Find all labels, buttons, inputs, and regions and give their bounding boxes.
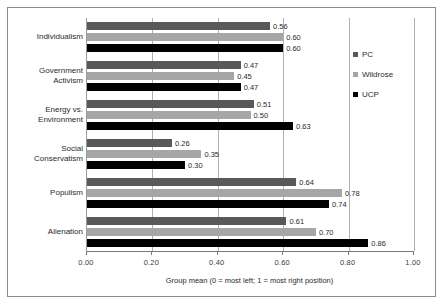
legend-label: UCP	[362, 90, 379, 99]
category-label: Individualism	[7, 32, 87, 42]
bar-value-label: 0.47	[241, 83, 259, 92]
bar-group: Populism0.640.780.74	[87, 173, 413, 212]
legend-swatch-icon	[353, 72, 358, 77]
tick-mark	[86, 251, 87, 255]
tick-mark	[217, 251, 218, 255]
chart-figure: Individualism0.560.600.60Government Acti…	[0, 0, 443, 304]
category-label: Populism	[7, 188, 87, 198]
bar-row: 0.70	[87, 228, 414, 236]
bar-row: 0.50	[87, 111, 414, 119]
x-tick-label: 0.20	[144, 258, 159, 267]
bar-wildrose[interactable]	[87, 150, 201, 158]
legend-item-wildrose[interactable]: Wildrose	[353, 64, 433, 84]
category-label: Social Conservatism	[7, 144, 87, 164]
category-label: Government Activism	[7, 66, 87, 86]
bar-value-label: 0.35	[201, 149, 219, 158]
x-tick-label: 0.40	[209, 258, 224, 267]
chart-legend: PCWildroseUCP	[353, 44, 433, 104]
bar-value-label: 0.86	[368, 238, 386, 247]
bar-ucp[interactable]	[87, 83, 241, 91]
bar-value-label: 0.61	[286, 216, 304, 225]
x-tick-label: 1.00	[405, 258, 420, 267]
tick-mark	[151, 251, 152, 255]
legend-swatch-icon	[353, 52, 358, 57]
category-label: Alienation	[7, 227, 87, 237]
bar-ucp[interactable]	[87, 44, 283, 52]
bar-wildrose[interactable]	[87, 228, 316, 236]
bar-row: 0.60	[87, 33, 414, 41]
bar-row: 0.26	[87, 139, 414, 147]
bar-row: 0.56	[87, 22, 414, 30]
bar-wildrose[interactable]	[87, 72, 234, 80]
bar-pc[interactable]	[87, 139, 172, 147]
legend-label: Wildrose	[362, 70, 393, 79]
bar-value-label: 0.56	[270, 22, 288, 31]
bar-ucp[interactable]	[87, 200, 329, 208]
bar-value-label: 0.78	[342, 188, 360, 197]
bar-value-label: 0.74	[329, 199, 347, 208]
x-tick-label: 0.00	[78, 258, 93, 267]
bar-pc[interactable]	[87, 100, 254, 108]
bar-value-label: 0.47	[241, 61, 259, 70]
x-axis-line	[86, 251, 413, 252]
x-axis-title: Group mean (0 = most left; 1 = most righ…	[86, 276, 413, 285]
bar-row: 0.35	[87, 150, 414, 158]
category-label: Energy vs. Environment	[7, 105, 87, 125]
bar-value-label: 0.51	[254, 100, 272, 109]
bar-row: 0.30	[87, 161, 414, 169]
bar-value-label: 0.26	[172, 138, 190, 147]
bar-pc[interactable]	[87, 178, 296, 186]
bar-row: 0.86	[87, 239, 414, 247]
bar-pc[interactable]	[87, 217, 286, 225]
bar-row: 0.61	[87, 217, 414, 225]
tick-mark	[348, 251, 349, 255]
bar-row: 0.78	[87, 189, 414, 197]
bar-wildrose[interactable]	[87, 33, 283, 41]
bar-group: Social Conservatism0.260.350.30	[87, 135, 413, 174]
bar-value-label: 0.30	[185, 160, 203, 169]
bar-value-label: 0.60	[283, 44, 301, 53]
bar-value-label: 0.45	[234, 72, 252, 81]
bar-ucp[interactable]	[87, 239, 368, 247]
legend-label: PC	[362, 50, 373, 59]
bar-ucp[interactable]	[87, 161, 185, 169]
bar-value-label: 0.64	[296, 177, 314, 186]
bar-row: 0.74	[87, 200, 414, 208]
x-tick-label: 0.60	[274, 258, 289, 267]
bar-pc[interactable]	[87, 61, 241, 69]
x-tick-label: 0.80	[340, 258, 355, 267]
legend-item-pc[interactable]: PC	[353, 44, 433, 64]
bar-value-label: 0.60	[283, 33, 301, 42]
bar-row: 0.63	[87, 122, 414, 130]
bar-ucp[interactable]	[87, 122, 293, 130]
tick-mark	[282, 251, 283, 255]
legend-item-ucp[interactable]: UCP	[353, 84, 433, 104]
bar-pc[interactable]	[87, 22, 270, 30]
tick-mark	[413, 251, 414, 255]
legend-swatch-icon	[353, 92, 358, 97]
bar-wildrose[interactable]	[87, 111, 251, 119]
bar-value-label: 0.63	[293, 122, 311, 131]
bar-value-label: 0.50	[251, 111, 269, 120]
bar-value-label: 0.70	[316, 227, 334, 236]
bar-group: Alienation0.610.700.86	[87, 212, 413, 251]
bar-wildrose[interactable]	[87, 189, 342, 197]
bar-row: 0.64	[87, 178, 414, 186]
